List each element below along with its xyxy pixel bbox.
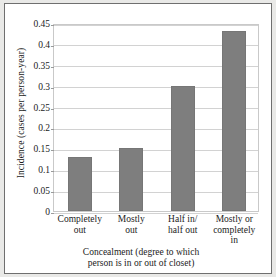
y-tick-mark xyxy=(51,129,54,130)
figure-frame: Incidence (cases per person-year) 00.050… xyxy=(4,3,272,274)
x-axis-title: Concealment (degree to whichperson is in… xyxy=(25,247,257,269)
y-tick-mark xyxy=(51,171,54,172)
y-tick-mark xyxy=(51,46,54,47)
y-tick-label: 0.15 xyxy=(33,146,50,156)
x-tick-label: Mostly orcompletelyin xyxy=(203,214,265,246)
plot-area: 00.050.10.150.20.250.30.350.40.45 Comple… xyxy=(53,24,259,212)
bar xyxy=(68,157,92,211)
bar xyxy=(119,148,143,211)
y-tick-label: 0.35 xyxy=(33,62,50,72)
y-tick-label: 0.05 xyxy=(33,187,50,197)
y-tick-mark xyxy=(51,67,54,68)
y-tick-mark xyxy=(51,25,54,26)
figure: Incidence (cases per person-year) 00.050… xyxy=(0,0,276,277)
y-tick-label: 0.45 xyxy=(33,20,50,30)
y-tick-mark xyxy=(51,88,54,89)
y-tick-label: 0.25 xyxy=(33,104,50,114)
y-tick-mark xyxy=(51,192,54,193)
gridline xyxy=(54,25,258,26)
y-axis-title: Incidence (cases per person-year) xyxy=(16,18,26,208)
bar xyxy=(171,86,195,211)
y-tick-label: 0.3 xyxy=(38,83,50,93)
bar xyxy=(222,31,246,211)
bar-chart: Incidence (cases per person-year) 00.050… xyxy=(5,4,273,275)
y-tick-label: 0.2 xyxy=(38,125,50,135)
y-tick-label: 0.4 xyxy=(38,41,50,51)
y-tick-mark xyxy=(51,109,54,110)
y-tick-mark xyxy=(51,150,54,151)
y-tick-label: 0.1 xyxy=(38,166,50,176)
